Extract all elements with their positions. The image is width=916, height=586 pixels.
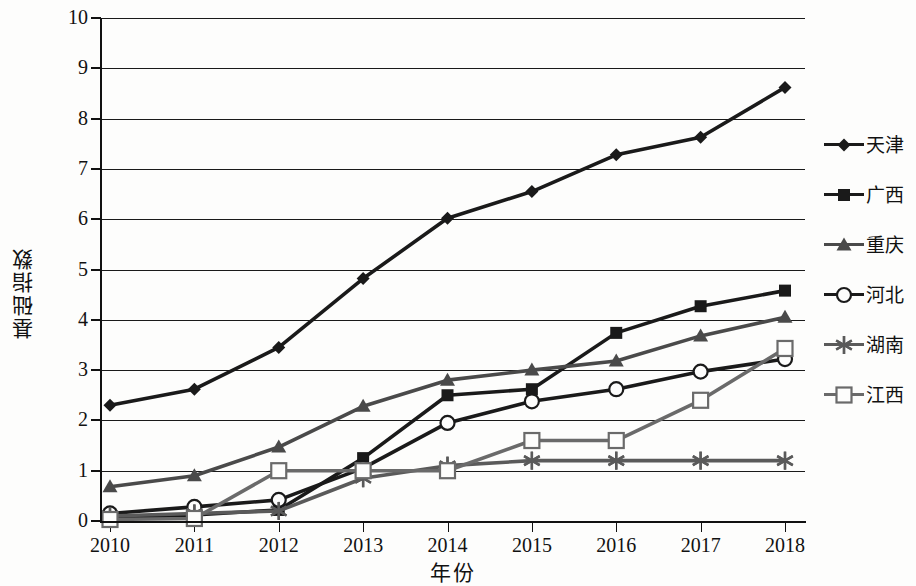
- series-line: [110, 291, 785, 519]
- data-point-square: [610, 327, 622, 339]
- x-axis-title-text: 年份: [430, 561, 476, 585]
- y-axis-title: 基础指数: [6, 0, 42, 586]
- legend-swatch-triangle-icon: [824, 235, 864, 253]
- data-point-diamond: [838, 138, 851, 151]
- legend: 天津广西重庆河北湖南江西: [824, 132, 916, 432]
- data-point-square: [838, 189, 850, 201]
- legend-label: 天津: [866, 130, 904, 157]
- legend-swatch-circle-open-icon: [824, 285, 864, 303]
- legend-item-广西[interactable]: 广西: [824, 182, 916, 205]
- legend-item-重庆[interactable]: 重庆: [824, 232, 916, 255]
- x-axis-title: 年份: [100, 556, 806, 586]
- data-point-square: [779, 285, 791, 297]
- legend-swatch-asterisk-icon: [824, 335, 864, 353]
- legend-marker-diamond-icon: [824, 135, 864, 155]
- data-point-square-open: [609, 433, 624, 448]
- legend-item-湖南[interactable]: 湖南: [824, 332, 916, 355]
- chart-figure: 基础指数 012345678910 2010201120122013201420…: [0, 0, 916, 586]
- series-layer: [100, 18, 805, 521]
- y-axis-tick-label: 6: [52, 208, 88, 228]
- data-point-square-open: [440, 463, 455, 478]
- plot-area: 012345678910 201020112012201320142015201…: [100, 18, 805, 521]
- legend-item-河北[interactable]: 河北: [824, 282, 916, 305]
- legend-marker-asterisk-icon: [824, 335, 864, 355]
- data-point-circle-open: [837, 288, 851, 302]
- x-axis-tick-label: 2017: [659, 535, 743, 555]
- data-point-square-open: [356, 463, 371, 478]
- data-point-circle-open: [525, 394, 539, 408]
- legend-marker-circle-open-icon: [824, 285, 864, 305]
- x-axis-tick-label: 2011: [152, 535, 236, 555]
- x-axis-tick-label: 2018: [743, 535, 827, 555]
- data-point-square-open: [693, 393, 708, 408]
- y-axis-tick-label: 3: [52, 359, 88, 379]
- data-point-asterisk: [836, 336, 852, 354]
- legend-marker-triangle-icon: [824, 235, 864, 255]
- x-axis-tick-label: 2012: [237, 535, 321, 555]
- legend-label: 湖南: [866, 330, 904, 357]
- legend-item-天津[interactable]: 天津: [824, 132, 916, 155]
- x-axis-tick-label: 2010: [68, 535, 152, 555]
- legend-label: 河北: [866, 280, 904, 307]
- x-axis-tick-label: 2014: [406, 535, 490, 555]
- x-axis-tick-label: 2013: [321, 535, 405, 555]
- data-point-square-open: [778, 341, 793, 356]
- y-axis-tick-label: 8: [52, 108, 88, 128]
- data-point-diamond: [188, 383, 201, 396]
- legend-swatch-square-open-icon: [824, 385, 864, 403]
- legend-marker-square-icon: [824, 185, 864, 205]
- data-point-circle-open: [441, 416, 455, 430]
- data-point-diamond: [104, 399, 117, 412]
- data-point-square-open: [524, 433, 539, 448]
- y-axis-title-text: 基础指数: [9, 247, 39, 339]
- x-axis-tick-label: 2016: [574, 535, 658, 555]
- data-point-circle-open: [609, 382, 623, 396]
- legend-item-江西[interactable]: 江西: [824, 382, 916, 405]
- y-axis-tick-label: 4: [52, 309, 88, 329]
- series-江西: [103, 341, 793, 527]
- legend-marker-square-open-icon: [824, 385, 864, 405]
- series-line: [110, 87, 785, 405]
- y-axis-line: [100, 18, 102, 523]
- y-axis-tick-label: 5: [52, 259, 88, 279]
- y-axis-tick-label: 7: [52, 158, 88, 178]
- legend-swatch-diamond-icon: [824, 135, 864, 153]
- series-天津: [104, 81, 792, 412]
- data-point-square-open: [103, 512, 118, 527]
- data-point-diamond: [525, 185, 538, 198]
- y-axis-tick-label: 1: [52, 460, 88, 480]
- data-point-square: [442, 389, 454, 401]
- legend-label: 重庆: [866, 230, 904, 257]
- y-axis-tick-label: 2: [52, 409, 88, 429]
- y-axis-tick-label: 0: [52, 510, 88, 530]
- data-point-square-open: [271, 463, 286, 478]
- data-point-square-open: [187, 511, 202, 526]
- x-axis-line: [100, 521, 806, 523]
- data-point-square: [695, 300, 707, 312]
- data-point-diamond: [610, 148, 623, 161]
- data-point-triangle: [778, 310, 793, 323]
- data-point-circle-open: [694, 365, 708, 379]
- y-axis-tick-label: 10: [52, 7, 88, 27]
- legend-label: 广西: [866, 180, 904, 207]
- x-axis-tick-label: 2015: [490, 535, 574, 555]
- legend-swatch-square-icon: [824, 185, 864, 203]
- data-point-triangle: [837, 237, 852, 250]
- y-axis-tick-label: 9: [52, 57, 88, 77]
- data-point-square-open: [837, 387, 852, 402]
- legend-label: 江西: [866, 380, 904, 407]
